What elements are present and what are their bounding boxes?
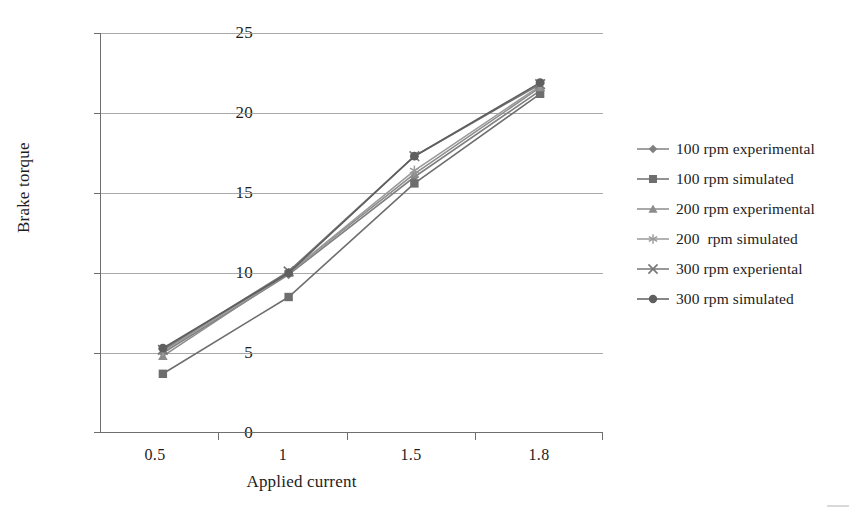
- legend-item-4[interactable]: 300 rpm experiental: [636, 260, 815, 278]
- triangle-marker-icon: [636, 201, 670, 217]
- legend-label-4: 300 rpm experiental: [676, 260, 803, 278]
- legend-item-5[interactable]: 300 rpm simulated: [636, 290, 815, 308]
- legend-item-1[interactable]: 100 rpm simulated: [636, 170, 815, 188]
- x-axis-title: Applied current: [0, 472, 603, 492]
- y-axis-title: Brake torque: [14, 142, 34, 233]
- x-tick-mark-2: [475, 433, 476, 440]
- series-layer: [100, 33, 603, 433]
- x-tick-label-2: 1.5: [401, 446, 422, 464]
- cross-marker-icon: [636, 261, 670, 277]
- scan-artifact: [827, 505, 849, 507]
- diamond-marker-icon: [636, 141, 670, 157]
- series-1: [159, 90, 545, 378]
- legend-item-3[interactable]: 200 rpm simulated: [636, 230, 815, 248]
- x-tick-label-1: 1: [279, 446, 287, 464]
- series-4: [158, 79, 545, 354]
- circle-marker-icon: [636, 291, 670, 307]
- legend-label-0: 100 rpm experimental: [676, 140, 815, 158]
- legend-label-2: 200 rpm experimental: [676, 200, 815, 218]
- legend-item-0[interactable]: 100 rpm experimental: [636, 140, 815, 158]
- x-tick-label-3: 1.8: [529, 446, 550, 464]
- square-marker-icon: [636, 171, 670, 187]
- series-3: [159, 81, 545, 357]
- x-tick-label-0: 0.5: [145, 446, 166, 464]
- x-tick-mark-1: [347, 433, 348, 440]
- plot-area: [100, 33, 603, 433]
- legend-label-1: 100 rpm simulated: [676, 170, 794, 188]
- x-tick-mark-0: [218, 433, 219, 440]
- legend-item-2[interactable]: 200 rpm experimental: [636, 200, 815, 218]
- chart-legend: 100 rpm experimental 100 rpm simulated 2…: [636, 140, 815, 308]
- x-tick-mark-3: [602, 433, 603, 440]
- series-5: [158, 78, 544, 352]
- legend-label-3: 200 rpm simulated: [676, 230, 798, 248]
- legend-label-5: 300 rpm simulated: [676, 290, 794, 308]
- chart-figure: Brake torque 25 20 15 10 5 0 0.5 1 1.5 1…: [0, 0, 865, 517]
- asterisk-marker-icon: [636, 231, 670, 247]
